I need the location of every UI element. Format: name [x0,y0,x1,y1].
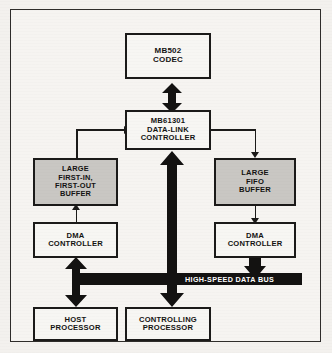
block-left-dma-controller[interactable]: DMA CONTROLLER [33,222,118,258]
block-right-dma-controller[interactable]: DMA CONTROLLER [214,222,296,258]
bus-branch-left [75,273,171,285]
right-buffer-line-3: BUFFER [216,186,294,195]
controlling-processor-line-2: PROCESSOR [127,324,209,333]
diagram-canvas: HIGH-SPEED DATA BUS MB502 CODEC MB61301 … [0,0,332,353]
wire-left-buffer-to-dlc [76,129,125,131]
diagram-frame: HIGH-SPEED DATA BUS MB502 CODEC MB61301 … [10,9,321,342]
bus-label: HIGH-SPEED DATA BUS [185,275,274,284]
block-host-processor[interactable]: HOST PROCESSOR [33,307,118,341]
dlc-line-3: CONTROLLER [127,134,209,143]
wire-left-buffer-up [76,129,78,158]
right-dma-line-2: CONTROLLER [216,240,294,249]
codec-line-2: CODEC [127,56,209,65]
wire-dlc-to-right [211,129,256,131]
left-buffer-line-4: BUFFER [35,190,116,198]
block-data-link-controller[interactable]: MB61301 DATA-LINK CONTROLLER [125,110,211,150]
left-dma-line-2: CONTROLLER [35,240,116,249]
host-processor-line-2: PROCESSOR [35,324,116,333]
block-right-buffer[interactable]: LARGE FIFO BUFFER [214,158,296,206]
block-codec[interactable]: MB502 CODEC [125,33,211,79]
arrow-codec-dlc [161,83,183,113]
block-left-buffer[interactable]: LARGE FIRST-IN, FIRST-OUT BUFFER [33,158,118,206]
block-controlling-processor[interactable]: CONTROLLING PROCESSOR [125,307,211,341]
high-speed-data-bus: HIGH-SPEED DATA BUS [171,273,302,285]
